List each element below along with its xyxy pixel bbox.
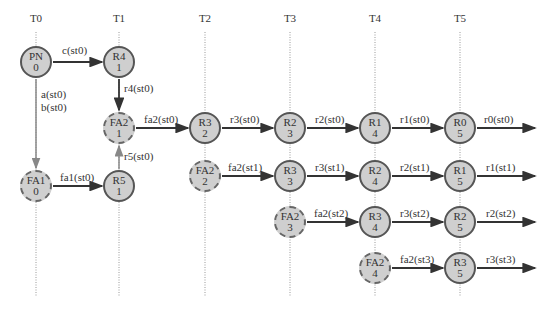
node-time: 2 (202, 176, 208, 187)
edge-label: r3(st2) (400, 207, 429, 219)
node-time: 0 (33, 186, 39, 197)
edge-label: r3(st3) (486, 253, 515, 265)
node-time: 4 (372, 268, 378, 279)
node-time: 4 (372, 176, 378, 187)
node-r0_5: R05 (444, 112, 476, 144)
node-time: 4 (372, 128, 378, 139)
node-time: 1 (116, 186, 122, 197)
column-label: T5 (454, 12, 466, 24)
node-r2_5: R25 (444, 206, 476, 238)
column-label: T2 (199, 12, 211, 24)
edge-label: r1(st0) (400, 113, 429, 125)
node-fa2_4: FA24 (359, 252, 391, 284)
node-fa2_3: FA23 (274, 206, 306, 238)
node-r5_1: R51 (103, 170, 135, 202)
column-label: T1 (113, 12, 125, 24)
edge-label: r0(st0) (484, 113, 513, 125)
edge-label: r2(st1) (400, 161, 429, 173)
node-r3_2: R32 (189, 112, 221, 144)
edge-label: fa2(st2) (314, 207, 348, 219)
edge-label: b(st0) (41, 101, 67, 113)
node-fa1_0: FA10 (20, 170, 52, 202)
node-r3_3: R33 (274, 160, 306, 192)
edge-label: fa1(st0) (60, 171, 94, 183)
node-fa2_2: FA22 (189, 160, 221, 192)
node-r1_5: R15 (444, 160, 476, 192)
node-time: 4 (372, 222, 378, 233)
node-r2_3: R23 (274, 112, 306, 144)
node-time: 5 (457, 128, 463, 139)
column-label: T4 (369, 12, 381, 24)
edge-label: r2(st2) (486, 207, 515, 219)
node-r2_4: R24 (359, 160, 391, 192)
edge-label: r1(st1) (486, 161, 515, 173)
node-time: 1 (116, 62, 122, 73)
edge-label: r4(st0) (124, 82, 153, 94)
node-r3_4: R34 (359, 206, 391, 238)
node-time: 3 (287, 176, 293, 187)
node-pn0: PN0 (20, 46, 52, 78)
node-r3_5: R35 (444, 252, 476, 284)
node-time: 5 (457, 222, 463, 233)
node-time: 1 (116, 128, 122, 139)
edge-label: r5(st0) (124, 150, 153, 162)
node-time: 0 (33, 62, 39, 73)
edge-label: fa2(st1) (228, 161, 262, 173)
edge-label: fa2(st3) (400, 253, 434, 265)
column-label: T0 (30, 12, 42, 24)
edge-label: c(st0) (62, 44, 87, 56)
node-fa2_1: FA21 (103, 112, 135, 144)
node-time: 5 (457, 176, 463, 187)
node-r4_1: R41 (103, 46, 135, 78)
edge-label: fa2(st0) (144, 113, 178, 125)
column-label: T3 (284, 12, 296, 24)
edge-label: r3(st1) (315, 161, 344, 173)
edge-label: r2(st0) (315, 113, 344, 125)
node-time: 3 (287, 128, 293, 139)
node-time: 5 (457, 268, 463, 279)
node-r1_4: R14 (359, 112, 391, 144)
edge-label: a(st0) (41, 88, 66, 100)
edge-label: r3(st0) (230, 113, 259, 125)
node-time: 3 (287, 222, 293, 233)
node-time: 2 (202, 128, 208, 139)
